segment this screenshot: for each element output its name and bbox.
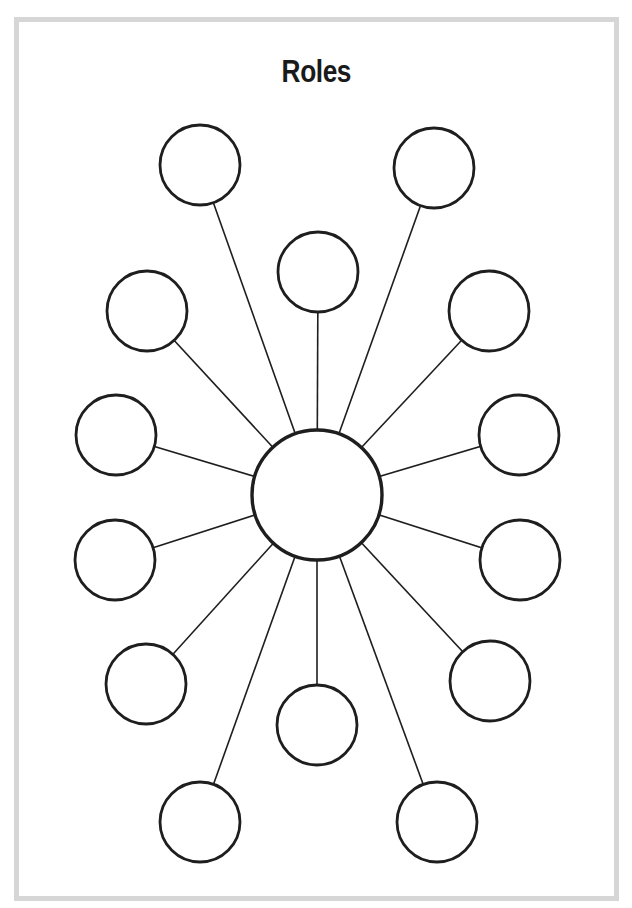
role-circle-bottom-left[interactable] (160, 782, 240, 862)
role-circle-lower-right[interactable] (450, 641, 530, 721)
roles-diagram (0, 0, 632, 908)
role-circle-bottom-right[interactable] (397, 782, 477, 862)
role-circle-upper-right[interactable] (449, 271, 529, 351)
role-circle-mid-lower-right[interactable] (480, 520, 560, 600)
role-circle-top-left[interactable] (160, 125, 240, 205)
role-circle-mid-lower-left[interactable] (75, 520, 155, 600)
role-circle-upper-left[interactable] (107, 271, 187, 351)
role-circle-mid-upper-left[interactable] (76, 395, 156, 475)
role-circle-top-right[interactable] (394, 128, 474, 208)
role-circle-bottom-center[interactable] (277, 685, 357, 765)
role-circle-top-center[interactable] (278, 232, 358, 312)
hub-circle[interactable] (252, 430, 382, 560)
role-circle-mid-upper-right[interactable] (479, 395, 559, 475)
role-circle-lower-left[interactable] (106, 644, 186, 724)
